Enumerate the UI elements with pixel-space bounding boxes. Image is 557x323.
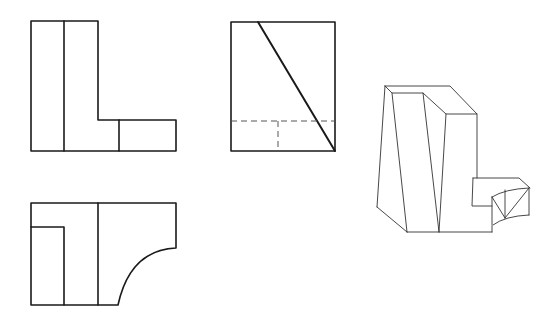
top-view <box>31 203 176 305</box>
side-view <box>231 22 335 151</box>
isometric-view <box>377 86 530 232</box>
technical-drawing <box>0 0 557 323</box>
front-view <box>31 21 176 151</box>
